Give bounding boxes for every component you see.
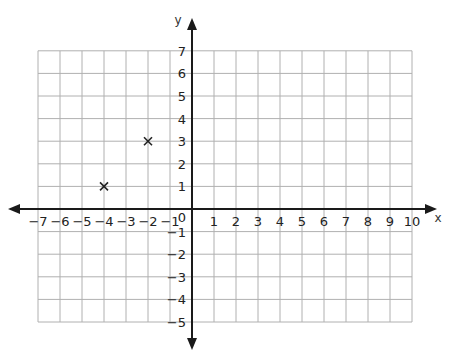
x-tick-label: 8 [364,214,372,229]
y-tick-label: −1 [167,225,186,240]
x-axis-left-arrow-icon [8,204,20,214]
x-axis-label: x [434,211,441,225]
x-tick-label: −4 [94,214,113,229]
y-tick-label: 1 [178,179,186,194]
x-tick-label: −3 [116,214,135,229]
grid-lines [38,51,412,322]
x-tick-label: 9 [386,214,394,229]
x-tick-label: 7 [342,214,350,229]
y-tick-label: 6 [178,66,186,81]
y-tick-label: −4 [167,292,186,307]
y-tick-label: −5 [167,315,186,330]
y-axis-down-arrow-icon [187,338,197,350]
x-tick-label: 3 [254,214,262,229]
y-tick-label: 2 [178,157,186,172]
x-tick-label: 2 [232,214,240,229]
y-tick-label: 4 [178,112,186,127]
y-tick-label: 7 [178,44,186,59]
y-tick-label: −3 [167,270,186,285]
x-tick-label: 10 [404,214,421,229]
origin-label: 0 [178,210,186,225]
y-axis-up-arrow-icon [187,18,197,30]
x-tick-label: −2 [138,214,157,229]
y-tick-label: 3 [178,134,186,149]
axes [8,18,437,350]
x-tick-label: 6 [320,214,328,229]
coordinate-grid: −7−6−5−4−3−2−112345678910 −5−4−3−2−11234… [0,0,449,360]
x-tick-label: −5 [72,214,91,229]
y-tick-label: 5 [178,89,186,104]
x-tick-label: 5 [298,214,306,229]
x-tick-label: 1 [210,214,218,229]
x-tick-label: −6 [50,214,69,229]
y-axis-label: y [174,13,181,27]
x-tick-labels: −7−6−5−4−3−2−112345678910 [28,214,420,229]
x-tick-label: 4 [276,214,284,229]
y-tick-label: −2 [167,247,186,262]
x-tick-label: −7 [28,214,47,229]
